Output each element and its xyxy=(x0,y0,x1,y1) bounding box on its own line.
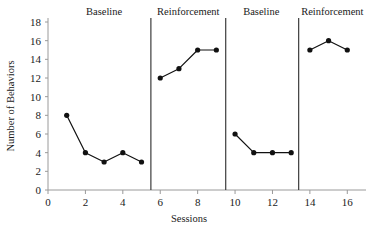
y-tick-label: 18 xyxy=(30,16,42,28)
data-point xyxy=(120,150,125,155)
x-tick-label: 12 xyxy=(267,196,278,208)
data-point xyxy=(232,131,237,136)
phase-label-4: Reinforcement xyxy=(301,6,363,17)
phase-line-2 xyxy=(160,50,216,78)
phase-line-3 xyxy=(235,134,291,153)
y-tick-label: 14 xyxy=(30,53,42,65)
data-point xyxy=(345,47,350,52)
x-tick-label: 14 xyxy=(304,196,316,208)
x-tick-label: 6 xyxy=(157,196,163,208)
data-point xyxy=(195,47,200,52)
x-tick-label: 0 xyxy=(45,196,51,208)
phase-line-1 xyxy=(67,115,142,162)
data-point xyxy=(251,150,256,155)
x-tick-label: 10 xyxy=(230,196,242,208)
data-point xyxy=(139,159,144,164)
behavior-chart: 0246810121416180246810121416SessionsNumb… xyxy=(0,0,374,230)
y-tick-label: 6 xyxy=(36,128,42,140)
data-point xyxy=(102,159,107,164)
data-point xyxy=(158,75,163,80)
data-point xyxy=(307,47,312,52)
chart-container: 0246810121416180246810121416SessionsNumb… xyxy=(0,0,374,230)
y-tick-label: 8 xyxy=(36,109,42,121)
y-axis-title: Number of Behaviors xyxy=(5,61,16,152)
data-point xyxy=(64,113,69,118)
x-tick-label: 8 xyxy=(195,196,201,208)
x-tick-label: 2 xyxy=(83,196,89,208)
x-tick-label: 16 xyxy=(342,196,354,208)
y-tick-label: 16 xyxy=(30,35,42,47)
data-point xyxy=(176,66,181,71)
y-tick-label: 4 xyxy=(36,147,42,159)
data-point xyxy=(214,47,219,52)
data-point xyxy=(289,150,294,155)
y-tick-label: 10 xyxy=(30,91,42,103)
y-tick-label: 2 xyxy=(36,165,42,177)
y-tick-label: 12 xyxy=(30,72,41,84)
data-point xyxy=(83,150,88,155)
data-point xyxy=(270,150,275,155)
y-tick-label: 0 xyxy=(36,184,42,196)
data-point xyxy=(326,38,331,43)
phase-label-2: Reinforcement xyxy=(157,6,219,17)
x-axis-title: Sessions xyxy=(171,213,207,224)
phase-label-3: Baseline xyxy=(243,6,279,17)
x-tick-label: 4 xyxy=(120,196,126,208)
phase-label-1: Baseline xyxy=(86,6,122,17)
